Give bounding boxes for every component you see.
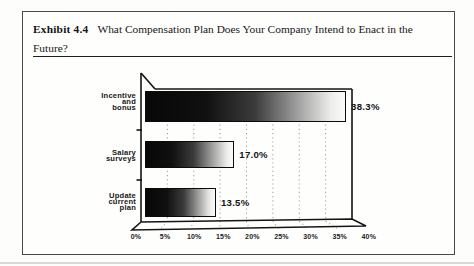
value-label: 38.3% — [351, 102, 380, 112]
x-axis-tick-label: 35% — [332, 233, 347, 240]
page-background: Exhibit 4.4What Compensation Plan Does Y… — [0, 0, 474, 266]
value-label: 13.5% — [221, 198, 250, 208]
x-axis-tick-label: 0% — [131, 233, 142, 240]
x-axis-tick-label: 25% — [274, 233, 289, 240]
category-label-line: bonus — [54, 105, 136, 111]
bar — [145, 188, 216, 217]
x-axis-tick-label: 5% — [160, 233, 171, 240]
bar — [145, 91, 346, 122]
x-axis-tick-label: 30% — [303, 233, 318, 240]
value-label: 17.0% — [239, 150, 268, 160]
bar-chart: 38.3%Incentiveandbonus17.0%Salarysurveys… — [0, 0, 474, 266]
category-label-line: plan — [54, 205, 136, 211]
x-axis-tick-label: 40% — [361, 233, 376, 240]
category-label: Salarysurveys — [54, 150, 136, 162]
category-label-line: surveys — [54, 156, 136, 162]
x-axis-tick-label: 15% — [216, 233, 231, 240]
category-label: Updatecurrentplan — [54, 193, 136, 211]
x-axis-tick-label: 10% — [187, 233, 202, 240]
category-label: Incentiveandbonus — [54, 93, 136, 111]
bar — [145, 141, 234, 168]
x-axis-tick-label: 20% — [245, 233, 260, 240]
page-edge-artifact — [0, 262, 474, 264]
